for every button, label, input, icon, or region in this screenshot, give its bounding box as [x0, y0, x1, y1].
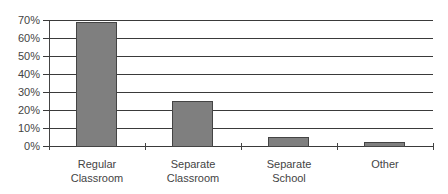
x-tick [241, 143, 242, 150]
x-tick [433, 143, 434, 150]
y-tick-label: 60% [0, 32, 40, 44]
y-tick [43, 110, 49, 111]
bar-regular-classroom [76, 22, 117, 147]
bar-separate-classroom [172, 101, 213, 147]
y-tick [43, 92, 49, 93]
x-category-label-line: School [241, 171, 337, 185]
y-tick-label: 40% [0, 68, 40, 80]
y-tick [43, 38, 49, 39]
bar-separate-school [268, 137, 309, 147]
x-category-label: SeparateClassroom [145, 157, 241, 185]
x-category-label-line: Separate [145, 157, 241, 171]
x-category-label-line: Separate [241, 157, 337, 171]
x-category-label: SeparateSchool [241, 157, 337, 185]
x-category-label-line: Classroom [49, 171, 145, 185]
y-tick [43, 56, 49, 57]
y-tick-label: 70% [0, 14, 40, 26]
x-category-label-line: Other [337, 157, 433, 171]
y-tick-label: 30% [0, 86, 40, 98]
y-tick-label: 0% [0, 140, 40, 152]
x-category-label: RegularClassroom [49, 157, 145, 185]
y-axis-line [49, 20, 50, 150]
x-category-label-line: Classroom [145, 171, 241, 185]
bar-other [364, 142, 405, 147]
x-tick [145, 143, 146, 150]
y-tick [43, 128, 49, 129]
y-tick-label: 10% [0, 122, 40, 134]
gridline [49, 20, 433, 21]
x-tick [337, 143, 338, 150]
x-category-label-line: Regular [49, 157, 145, 171]
y-tick-label: 20% [0, 104, 40, 116]
x-category-label: Other [337, 157, 433, 171]
y-tick-label: 50% [0, 50, 40, 62]
y-tick [43, 20, 49, 21]
x-tick [49, 143, 50, 150]
y-tick [43, 74, 49, 75]
